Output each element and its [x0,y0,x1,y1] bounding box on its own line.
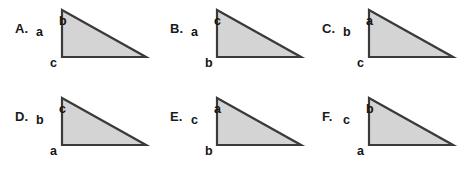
option-b-base-label: b [205,57,213,70]
option-a-hypotenuse-label: b [59,15,67,28]
option-b-letter: B. [170,22,183,35]
option-f-hypotenuse-label: b [366,103,374,116]
option-b-leg-label: a [191,26,198,39]
option-a-base-label: c [50,57,57,70]
option-f[interactable]: F. c b a [307,88,464,176]
option-d[interactable]: D. b c a [0,88,157,176]
option-a-letter: A. [15,22,28,35]
option-c[interactable]: C. b a c [307,0,464,88]
option-c-leg-label: b [343,26,351,39]
option-c-hypotenuse-label: a [366,15,373,28]
option-f-leg-label: c [343,114,350,127]
option-c-letter: C. [322,22,335,35]
option-b[interactable]: B. a c b [155,0,312,88]
triangle-options-figure: A. a b c B. a c b C. b a c [0,0,473,176]
option-f-letter: F. [322,110,333,123]
option-e[interactable]: E. c a b [155,88,312,176]
option-a-leg-label: a [36,26,43,39]
option-d-letter: D. [15,110,28,123]
option-e-base-label: b [205,145,213,158]
option-d-leg-label: b [36,114,44,127]
option-c-base-label: c [357,57,364,70]
option-b-hypotenuse-label: c [214,15,221,28]
option-a[interactable]: A. a b c [0,0,157,88]
option-f-base-label: a [357,145,364,158]
option-e-letter: E. [170,110,183,123]
option-d-base-label: a [50,145,57,158]
option-d-hypotenuse-label: c [59,103,66,116]
option-e-leg-label: c [191,114,198,127]
option-e-hypotenuse-label: a [214,103,221,116]
